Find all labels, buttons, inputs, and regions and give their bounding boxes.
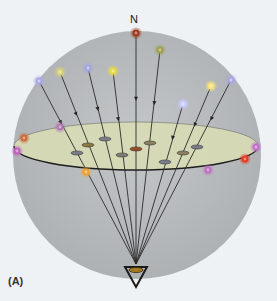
disk-mark xyxy=(130,147,142,151)
disk-mark xyxy=(71,151,83,155)
north-label: N xyxy=(130,13,138,25)
disk-mark xyxy=(116,153,128,157)
celestial-sphere-diagram: N (A) xyxy=(0,0,277,301)
disk-mark xyxy=(82,143,94,147)
disk-mark xyxy=(144,141,156,145)
disk-mark xyxy=(177,151,189,155)
panel-label: (A) xyxy=(8,275,23,287)
disk-mark xyxy=(99,137,111,141)
disk-mark xyxy=(191,145,203,149)
diagram-canvas xyxy=(0,0,277,301)
disk-mark xyxy=(159,160,171,164)
